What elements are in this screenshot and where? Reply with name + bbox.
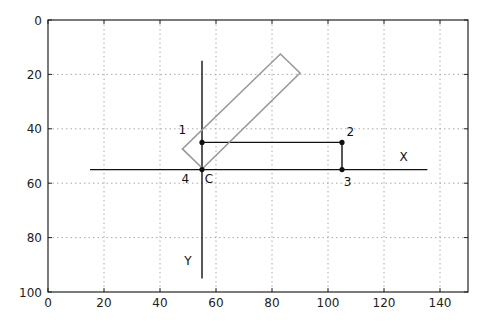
series-group [90, 54, 427, 278]
annotation-label: 4 [181, 172, 189, 186]
x-tick-label: 100 [317, 296, 340, 310]
y-tick-label: 60 [27, 177, 42, 191]
x-tick-label: 120 [373, 296, 396, 310]
annotation-label: 3 [344, 175, 352, 189]
x-tick-label: 80 [264, 296, 279, 310]
annotation-label: C [205, 172, 213, 186]
y-tick-label: 80 [27, 231, 42, 245]
y-tick-label: 0 [34, 14, 42, 28]
annotation-label: 2 [347, 125, 355, 139]
y-tick-label: 20 [27, 68, 42, 82]
x-tick-label: 40 [152, 296, 167, 310]
y-tick-label: 40 [27, 122, 42, 136]
x-tick-label: 20 [96, 296, 111, 310]
annotations: 1234CXY [179, 123, 408, 268]
point-marker [339, 140, 344, 145]
x-tick-labels: 020406080100120140 [44, 296, 451, 310]
y-tick-label: 100 [19, 286, 42, 300]
x-tick-label: 140 [429, 296, 452, 310]
series-line [182, 54, 300, 169]
annotation-label: Y [183, 254, 192, 268]
x-tick-label: 60 [208, 296, 223, 310]
y-tick-labels: 020406080100 [19, 14, 42, 300]
annotation-label: 1 [179, 123, 187, 137]
point-marker [339, 167, 344, 172]
point-marker [199, 140, 204, 145]
plot: 1234CXY 020406080100120140 020406080100 [0, 0, 487, 321]
x-tick-label: 0 [44, 296, 52, 310]
annotation-label: X [399, 150, 407, 164]
